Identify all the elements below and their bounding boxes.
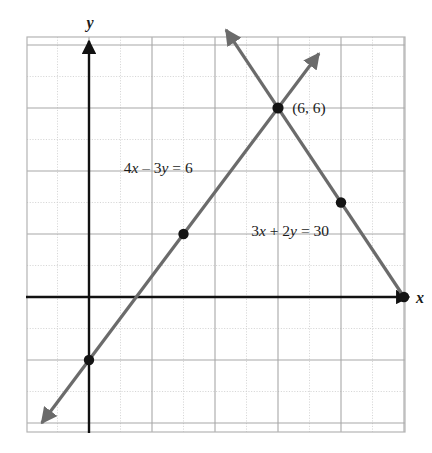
coordinate-plane-svg: 4x – 3y = 6 3x + 2y = 30 (6, 6) x y (0, 0, 432, 453)
data-point-marker (84, 355, 94, 365)
graph-figure: 4x – 3y = 6 3x + 2y = 30 (6, 6) x y (0, 0, 432, 453)
y-axis-label: y (84, 14, 94, 32)
figure-background (0, 0, 432, 453)
data-point-marker (178, 229, 188, 239)
equation-label-line-1: 4x – 3y = 6 (124, 159, 193, 176)
data-point-marker (336, 197, 346, 207)
x-axis-label: x (415, 289, 424, 306)
data-point-marker (399, 292, 409, 302)
equation-label-line-2: 3x + 2y = 30 (251, 222, 329, 239)
intersection-point-marker (272, 102, 283, 113)
intersection-point-label: (6, 6) (292, 99, 326, 117)
